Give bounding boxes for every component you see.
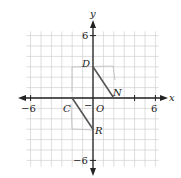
point-label-N: N [112, 87, 123, 98]
tick-label-y-6: 6 [82, 30, 88, 41]
point-label-D: D [81, 58, 90, 69]
minus-mark: − [84, 100, 92, 111]
x-axis-right-arrow-icon [160, 95, 168, 101]
point-label-R: R [94, 125, 103, 136]
tick-label-y-neg6: −6 [73, 155, 88, 166]
x-axis-left-arrow-icon [18, 95, 26, 101]
coordinate-plane: y x 6 −6 −6 6 O − D N C R [0, 0, 181, 178]
y-axis-top-arrow-icon [90, 20, 96, 28]
y-axis-bottom-arrow-icon [90, 168, 96, 176]
point-label-C: C [63, 103, 71, 114]
origin-label: O [96, 103, 104, 114]
y-axis-label: y [89, 8, 96, 19]
x-axis-label: x [169, 92, 175, 103]
tick-label-x-neg6: −6 [21, 103, 36, 114]
tick-label-x-6: 6 [151, 103, 157, 114]
